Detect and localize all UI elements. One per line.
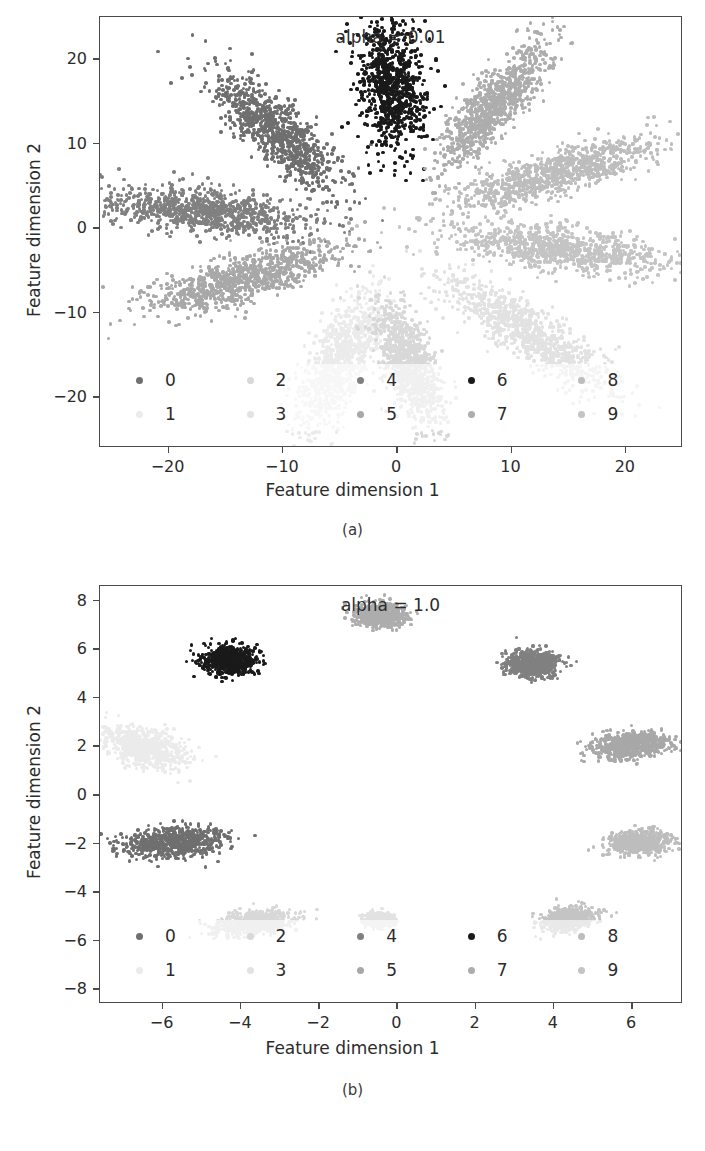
panel-a-legend-item-8[interactable]: 8 <box>564 364 675 396</box>
legend-item-label: 1 <box>165 404 176 424</box>
panel-a-axes: alpha = 0.01 0123456789 <box>99 16 682 447</box>
panel-b-y-tick-label: −8 <box>63 979 87 998</box>
panel-b-y-tick-label: 4 <box>77 687 87 706</box>
panel-b-x-tick <box>631 1003 633 1009</box>
panel-a-legend-item-9[interactable]: 9 <box>564 398 675 430</box>
legend-marker-icon <box>578 377 585 384</box>
panel-b-y-tick-label: 0 <box>77 785 87 804</box>
legend-marker-icon <box>357 933 364 940</box>
panel-b-legend-item-2[interactable]: 2 <box>233 920 344 952</box>
legend-item-label: 8 <box>607 370 618 390</box>
legend-item-label: 2 <box>276 370 287 390</box>
panel-b-legend-item-0[interactable]: 0 <box>122 920 233 952</box>
panel-b-x-tick-label: 0 <box>391 1013 401 1032</box>
panel-a-x-tick <box>282 447 284 453</box>
panel-a-legend-item-1[interactable]: 1 <box>122 398 233 430</box>
panel-b-x-tick-label: 6 <box>626 1013 636 1032</box>
panel-b-y-tick-label: −2 <box>63 833 87 852</box>
panel-a-x-tick <box>168 447 170 453</box>
panel-a-legend-item-3[interactable]: 3 <box>233 398 344 430</box>
panel-a-y-tick <box>93 312 99 314</box>
panel-b-x-tick <box>553 1003 555 1009</box>
panel-a-x-tick-label: 0 <box>391 457 401 476</box>
panel-b-legend-item-4[interactable]: 4 <box>343 920 454 952</box>
panel-b-axes: alpha = 1.0 0123456789 <box>99 585 682 1003</box>
panel-b-y-tick-label: −6 <box>63 930 87 949</box>
panel-b-y-tick-label: 2 <box>77 736 87 755</box>
panel-b-y-tick <box>93 648 99 650</box>
legend-item-label: 6 <box>497 370 508 390</box>
legend-marker-icon <box>468 933 475 940</box>
panel-b-y-tick <box>93 697 99 699</box>
panel-a-legend-item-7[interactable]: 7 <box>454 398 565 430</box>
legend-marker-icon <box>247 377 254 384</box>
panel-a-y-tick <box>93 143 99 145</box>
panel-b-legend-item-9[interactable]: 9 <box>564 954 675 986</box>
panel-b-legend-item-1[interactable]: 1 <box>122 954 233 986</box>
panel-a-x-tick-label: −20 <box>151 457 185 476</box>
panel-a-y-tick-label: 0 <box>77 218 87 237</box>
legend-item-label: 5 <box>386 404 397 424</box>
panel-b-y-tick <box>93 891 99 893</box>
legend-marker-icon <box>357 967 364 974</box>
panel-b-legend-item-3[interactable]: 3 <box>233 954 344 986</box>
legend-item-label: 8 <box>607 926 618 946</box>
panel-b-x-tick <box>162 1003 164 1009</box>
panel-a-legend-item-2[interactable]: 2 <box>233 364 344 396</box>
panel-a-legend-item-5[interactable]: 5 <box>343 398 454 430</box>
legend-marker-icon <box>357 377 364 384</box>
panel-a-legend-item-4[interactable]: 4 <box>343 364 454 396</box>
panel-a-caption: (a) <box>0 521 705 539</box>
panel-a-y-tick <box>93 396 99 398</box>
legend-marker-icon <box>578 933 585 940</box>
legend-item-label: 4 <box>386 926 397 946</box>
panel-a-y-tick-label: 20 <box>67 49 87 68</box>
panel-b-x-axis-label: Feature dimension 1 <box>0 1038 705 1058</box>
panel-a-x-tick-label: −10 <box>265 457 299 476</box>
panel-a-x-tick <box>511 447 513 453</box>
panel-b-x-tick <box>396 1003 398 1009</box>
panel-b-y-tick <box>93 940 99 942</box>
legend-marker-icon <box>468 967 475 974</box>
panel-b-caption: (b) <box>0 1081 705 1099</box>
legend-marker-icon <box>468 411 475 418</box>
panel-b-legend-item-6[interactable]: 6 <box>454 920 565 952</box>
panel-b-y-axis-label: Feature dimension 2 <box>24 642 44 942</box>
panel-b-x-tick <box>240 1003 242 1009</box>
panel-b-legend-item-7[interactable]: 7 <box>454 954 565 986</box>
legend-marker-icon <box>357 411 364 418</box>
panel-b-y-tick-label: 6 <box>77 639 87 658</box>
legend-item-label: 2 <box>276 926 287 946</box>
panel-b-y-tick <box>93 745 99 747</box>
panel-a-y-tick-label: −10 <box>53 302 87 321</box>
legend-marker-icon <box>247 933 254 940</box>
panel-a-y-axis-label: Feature dimension 2 <box>24 80 44 380</box>
legend-marker-icon <box>247 967 254 974</box>
panel-b-legend-item-5[interactable]: 5 <box>343 954 454 986</box>
panel-a-y-tick-label: −20 <box>53 387 87 406</box>
panel-a-x-axis-label: Feature dimension 1 <box>0 480 705 500</box>
panel-b-x-tick-label: −6 <box>150 1013 174 1032</box>
panel-b-x-tick <box>318 1003 320 1009</box>
legend-item-label: 9 <box>607 960 618 980</box>
panel-a-x-tick-label: 10 <box>500 457 520 476</box>
panel-b-y-tick <box>93 843 99 845</box>
legend-marker-icon <box>136 967 143 974</box>
legend-item-label: 3 <box>276 404 287 424</box>
panel-b-x-tick-label: −2 <box>306 1013 330 1032</box>
panel-b-y-tick-label: 8 <box>77 590 87 609</box>
legend-item-label: 1 <box>165 960 176 980</box>
figure-container: Feature dimension 2 alpha = 0.01 0123456… <box>0 0 705 1151</box>
panel-a-y-tick <box>93 58 99 60</box>
panel-b-x-tick-label: 4 <box>548 1013 558 1032</box>
panel-b-x-tick-label: −4 <box>228 1013 252 1032</box>
panel-a-y-tick <box>93 227 99 229</box>
panel-b-y-tick <box>93 794 99 796</box>
panel-a: Feature dimension 2 alpha = 0.01 0123456… <box>0 0 705 560</box>
legend-item-label: 0 <box>165 370 176 390</box>
legend-item-label: 3 <box>276 960 287 980</box>
panel-a-x-tick <box>625 447 627 453</box>
panel-b-legend-item-8[interactable]: 8 <box>564 920 675 952</box>
panel-a-legend-item-0[interactable]: 0 <box>122 364 233 396</box>
panel-a-legend-item-6[interactable]: 6 <box>454 364 565 396</box>
